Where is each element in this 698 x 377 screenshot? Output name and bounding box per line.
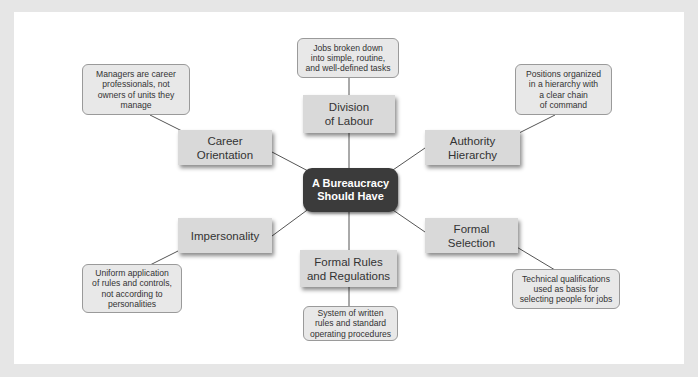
node-authority-hierarchy: Authority Hierarchy xyxy=(425,130,520,165)
callout-rules-text: System of written rules and standard ope… xyxy=(310,308,391,339)
callout-impersonality: Uniform application of rules and control… xyxy=(82,264,182,313)
callout-authority: Positions organized in a hierarchy with … xyxy=(515,64,612,115)
node-division-of-labour: Division of Labour xyxy=(303,95,395,133)
callout-career: Managers are career professionals, not o… xyxy=(82,64,190,115)
node-career-orientation: Career Orientation xyxy=(178,130,272,165)
node-division-label: Division of Labour xyxy=(325,100,374,128)
node-career-label: Career Orientation xyxy=(197,134,253,162)
node-selection-label: Formal Selection xyxy=(448,222,495,250)
callout-impersonality-text: Uniform application of rules and control… xyxy=(92,268,172,309)
node-impersonality-label: Impersonality xyxy=(191,229,259,243)
callout-authority-text: Positions organized in a hierarchy with … xyxy=(526,69,601,110)
node-formal-rules: Formal Rules and Regulations xyxy=(300,250,397,287)
callout-selection-text: Technical qualifications used as basis f… xyxy=(520,274,613,305)
node-impersonality: Impersonality xyxy=(178,218,272,253)
callout-career-text: Managers are career professionals, not o… xyxy=(96,69,176,110)
center-node-label: A Bureaucracy Should Have xyxy=(312,177,389,203)
node-formal-selection: Formal Selection xyxy=(425,218,518,253)
callout-rules: System of written rules and standard ope… xyxy=(303,306,398,341)
node-rules-label: Formal Rules and Regulations xyxy=(307,255,390,283)
center-node: A Bureaucracy Should Have xyxy=(303,168,398,212)
node-authority-label: Authority Hierarchy xyxy=(448,134,497,162)
callout-division: Jobs broken down into simple, routine, a… xyxy=(297,38,399,78)
callout-selection: Technical qualifications used as basis f… xyxy=(512,269,620,309)
callout-division-text: Jobs broken down into simple, routine, a… xyxy=(305,43,390,74)
